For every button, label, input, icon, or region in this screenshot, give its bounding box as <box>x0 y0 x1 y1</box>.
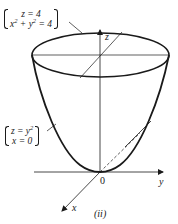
figure-caption: (ii) <box>94 208 106 219</box>
paraboloid-diagram <box>0 0 178 224</box>
top-circle-back <box>32 33 169 55</box>
left-brace <box>5 126 9 146</box>
equation-line: x2 + y2 = 4 <box>10 19 52 29</box>
x-axis-label: x <box>72 203 76 213</box>
equation-line: x = 0 <box>11 136 33 146</box>
y-axis-label: y <box>159 177 163 187</box>
top-leader-line <box>69 22 82 33</box>
x-axis <box>62 172 100 211</box>
dashed-line <box>100 133 140 172</box>
left-brace <box>4 9 8 29</box>
origin-label: 0 <box>100 176 105 186</box>
side-equation-annotation: z = y2 x = 0 <box>5 126 39 146</box>
paraboloid-profile <box>32 55 169 172</box>
right-brace <box>54 9 58 29</box>
right-brace <box>35 126 39 146</box>
z-axis-label: z <box>105 32 109 42</box>
top-circle-front <box>32 55 169 77</box>
equation-line: z = y2 <box>11 126 33 136</box>
top-equation-annotation: z = 4 x2 + y2 = 4 <box>4 9 58 29</box>
